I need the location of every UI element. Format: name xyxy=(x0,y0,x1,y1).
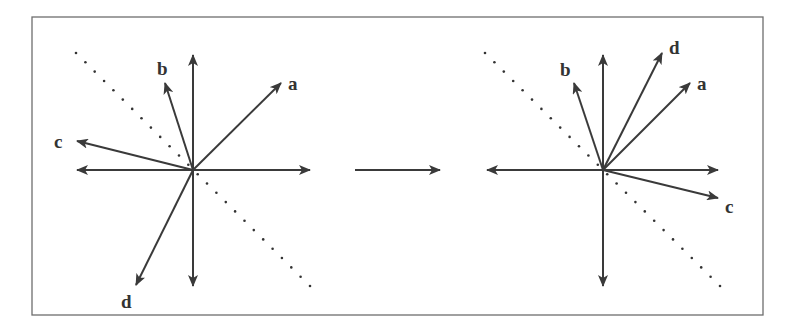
vector-label-d: d xyxy=(121,291,132,312)
vector-label-b: b xyxy=(560,59,571,80)
vector-b-arrow xyxy=(574,83,603,170)
vector-label-c: c xyxy=(725,196,733,217)
panel-before: abcd xyxy=(54,52,311,312)
vector-b: b xyxy=(560,59,603,170)
vector-a: a xyxy=(193,73,298,170)
vector-b-arrow xyxy=(165,83,193,170)
vector-c: c xyxy=(603,170,733,217)
vector-label-a: a xyxy=(288,73,298,94)
vector-d-arrow xyxy=(603,53,662,170)
vector-label-d: d xyxy=(669,37,680,58)
vector-label-c: c xyxy=(54,131,62,152)
vector-d-arrow xyxy=(136,170,193,285)
vector-c-arrow xyxy=(603,170,718,198)
diagram-frame xyxy=(32,17,763,315)
panel-after: abcd xyxy=(484,37,734,287)
vector-label-a: a xyxy=(697,73,707,94)
vector-a-arrow xyxy=(193,83,281,170)
diagram-canvas: abcd abcd xyxy=(0,0,792,325)
vector-label-b: b xyxy=(157,58,168,79)
vector-a: a xyxy=(603,73,707,170)
vector-d: d xyxy=(121,170,193,312)
vector-b: b xyxy=(157,58,193,170)
vector-a-arrow xyxy=(603,83,690,170)
vector-diagram: abcd abcd xyxy=(0,0,792,325)
vector-c: c xyxy=(54,131,193,170)
vector-c-arrow xyxy=(77,141,193,170)
